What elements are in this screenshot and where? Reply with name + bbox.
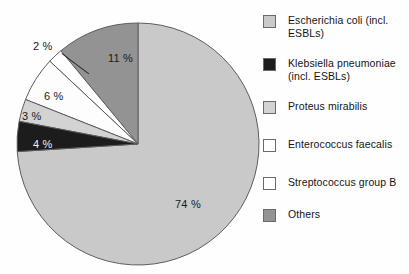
legend-swatch [263, 139, 276, 152]
pie-slices-group [17, 23, 259, 265]
legend-label: Escherichia coli (incl.ESBLs) [288, 14, 388, 40]
legend-item[interactable]: Others [263, 208, 320, 222]
pie-chart-figure: 74 % 11 % 2 % 6 % 3 % 4 % Escherichia co… [0, 0, 409, 274]
legend-swatch [263, 58, 276, 71]
pie-plot-area: 74 % 11 % 2 % 6 % 3 % 4 % [0, 0, 262, 274]
legend-swatch [263, 101, 276, 114]
legend-item[interactable]: Streptococcus group B [263, 176, 396, 190]
slice-label-proteus-mirabilis: 3 % [22, 110, 42, 122]
legend-swatch [263, 177, 276, 190]
legend-swatch [263, 209, 276, 222]
legend-item[interactable]: Proteus mirabilis [263, 100, 367, 114]
slice-label-others: 11 % [108, 52, 133, 64]
slice-label-streptococcus-group-b: 2 % [33, 40, 53, 52]
legend-label: Others [288, 208, 320, 221]
slice-label-klebsiella-pneumoniae: 4 % [33, 138, 53, 150]
legend-label: Proteus mirabilis [288, 100, 367, 113]
legend-item[interactable]: Escherichia coli (incl.ESBLs) [263, 14, 388, 40]
slice-label-enterococcus-faecalis: 6 % [44, 90, 64, 102]
legend-label: Streptococcus group B [288, 176, 396, 189]
legend-item[interactable]: Enterococcus faecalis [263, 138, 392, 152]
slice-label-escherichia-coli: 74 % [175, 198, 201, 210]
legend-swatch [263, 15, 276, 28]
legend-label: Klebsiella pneumoniae(incl. ESBLs) [288, 57, 396, 83]
legend-item[interactable]: Klebsiella pneumoniae(incl. ESBLs) [263, 57, 396, 83]
legend-label: Enterococcus faecalis [288, 138, 392, 151]
